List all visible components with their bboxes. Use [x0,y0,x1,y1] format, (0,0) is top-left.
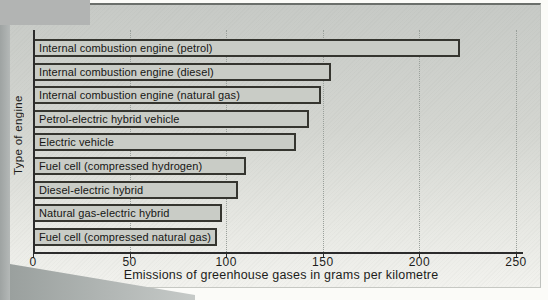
plot-area: Internal combustion engine (petrol)Inter… [33,30,518,252]
x-tick-label: 50 [122,255,136,269]
bar-label: Fuel cell (compressed hydrogen) [35,159,202,173]
bar-label: Diesel-electric hybrid [35,183,143,197]
bar: Diesel-electric hybrid [33,181,238,199]
x-tick-label: 250 [505,255,527,269]
bar-label: Internal combustion engine (natural gas) [35,88,240,102]
bar-label: Internal combustion engine (petrol) [35,41,212,55]
bar-label: Natural gas-electric hybrid [35,206,169,220]
bar: Internal combustion engine (natural gas) [33,86,321,104]
bar: Fuel cell (compressed hydrogen) [33,157,246,175]
bar: Internal combustion engine (petrol) [33,39,460,57]
x-tick-label: 0 [29,255,36,269]
x-tick-label: 150 [312,255,334,269]
y-axis-title: Type of engine [12,67,32,203]
bar: Electric vehicle [33,133,296,151]
gridline [419,30,420,252]
gridline [516,30,517,252]
x-axis-title: Emissions of greenhouse gases in grams p… [33,268,529,282]
bar-label: Internal combustion engine (diesel) [35,65,214,79]
scan-left-strip [0,0,10,300]
bar-label: Petrol-electric hybrid vehicle [35,112,180,126]
figure-panel: Type of engine Internal combustion engin… [10,3,541,288]
x-axis-line [33,252,523,254]
bar: Fuel cell (compressed natural gas) [33,228,217,246]
bar: Natural gas-electric hybrid [33,204,222,222]
x-tick-label: 100 [215,255,237,269]
y-axis-line [33,30,35,254]
bar-label: Fuel cell (compressed natural gas) [35,230,211,244]
x-tick-label: 200 [409,255,431,269]
bar: Petrol-electric hybrid vehicle [33,110,309,128]
bar: Internal combustion engine (diesel) [33,63,331,81]
bar-label: Electric vehicle [35,135,114,149]
scan-corner-block [0,0,90,25]
